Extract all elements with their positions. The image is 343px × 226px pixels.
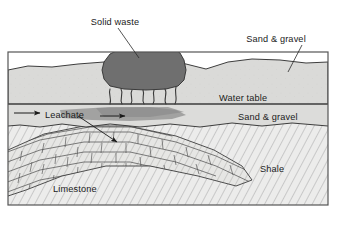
label-solid-waste: Solid waste: [91, 17, 140, 27]
label-water-table: Water table: [219, 93, 267, 103]
label-sand-gravel-top: Sand & gravel: [246, 34, 306, 44]
figure-container: Solid waste Sand & gravel Water table Sa…: [0, 0, 343, 226]
section-body: [2, 44, 328, 208]
cross-section-diagram: Solid waste Sand & gravel Water table Sa…: [0, 0, 343, 226]
label-shale: Shale: [260, 164, 284, 174]
label-leachate: Leachate: [45, 110, 84, 120]
label-sand-gravel-saturated: Sand & gravel: [238, 112, 298, 122]
label-limestone: Limestone: [53, 184, 97, 194]
